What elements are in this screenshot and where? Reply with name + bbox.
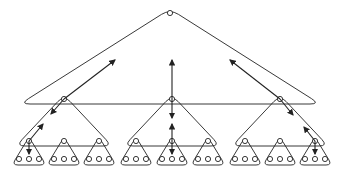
leaf-node: [169, 156, 174, 161]
leaf-node: [106, 156, 111, 161]
leaf-node: [267, 156, 272, 161]
leaf-node: [143, 156, 148, 161]
up-arrow: [230, 60, 280, 99]
leaf-node: [302, 156, 307, 161]
leaf-node: [51, 156, 56, 161]
leaf-node: [252, 156, 257, 161]
leaf-node: [242, 156, 247, 161]
leaf-node: [16, 156, 21, 161]
leaf-node: [232, 156, 237, 161]
leaf-parent-node: [96, 138, 101, 143]
leaf-node: [195, 156, 200, 161]
leaf-parent-node: [133, 138, 138, 143]
leaf-node: [159, 156, 164, 161]
root-node: [167, 10, 172, 15]
leaf-parent-node: [277, 138, 282, 143]
leaf-node: [71, 156, 76, 161]
leaf-node: [26, 156, 31, 161]
leaf-node: [215, 156, 220, 161]
diagram-canvas: [0, 0, 346, 174]
leaf-node: [123, 156, 128, 161]
hierarchy-diagram: [0, 0, 346, 174]
leaf-node: [322, 156, 327, 161]
leaf-parent-node: [205, 138, 210, 143]
leaf-node: [86, 156, 91, 161]
up-arrow: [304, 127, 315, 141]
top-triangle-outline: [25, 12, 316, 104]
leaf-node: [287, 156, 292, 161]
leaf-node: [36, 156, 41, 161]
leaf-node: [277, 156, 282, 161]
leaf-node: [205, 156, 210, 161]
leaf-node: [179, 156, 184, 161]
leaf-parent-node: [61, 138, 66, 143]
leaf-node: [61, 156, 66, 161]
leaf-parent-node: [242, 138, 247, 143]
leaf-node: [133, 156, 138, 161]
top-level-triangle: [25, 10, 316, 104]
leaf-node: [96, 156, 101, 161]
up-arrow: [29, 124, 43, 141]
leaf-node: [312, 156, 317, 161]
up-arrow: [64, 60, 115, 99]
